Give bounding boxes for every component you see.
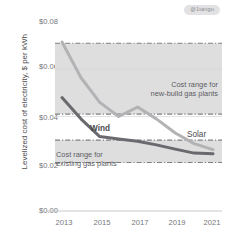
plot-area: [0, 0, 228, 250]
annotation-line-2: existing gas plants: [56, 159, 117, 168]
annotation-line-2: new-build gas plants: [151, 89, 218, 98]
series-label-solar: Solar: [187, 130, 206, 139]
series-label-wind: Wind: [90, 124, 110, 133]
annotation-existing-gas: Cost range for existing gas plants: [56, 150, 117, 169]
annotation-line-1: Cost range for: [56, 150, 117, 159]
chart-figure: @1tangu Levelized cost of electricity, $…: [0, 0, 228, 250]
annotation-line-1: Cost range for: [151, 80, 218, 89]
annotation-new-build-gas: Cost range for new-build gas plants: [151, 80, 218, 99]
